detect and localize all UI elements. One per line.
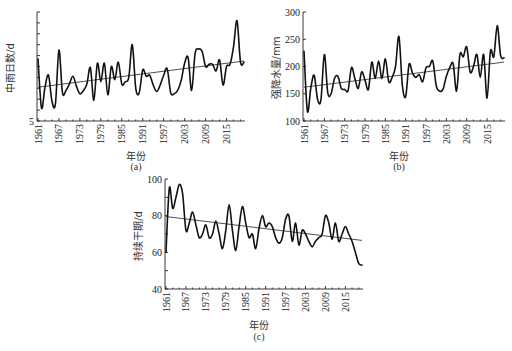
y-tick-label: 60 — [152, 247, 162, 258]
x-tick-label: 1997 — [280, 292, 291, 312]
chart-c-group: 4060801001961196719731979198519911997200… — [132, 174, 363, 344]
y-tick-label: 80 — [152, 210, 162, 221]
y-axis-label: 持续干期/d — [132, 211, 144, 261]
x-tick-label: 1967 — [180, 292, 191, 312]
x-tick-label: 2009 — [320, 292, 331, 312]
data-series-line — [166, 184, 362, 265]
x-tick-label: 1979 — [220, 292, 231, 312]
x-tick-label: 1973 — [200, 292, 211, 312]
x-axis-label: 年份 — [249, 319, 269, 331]
x-tick-label: 2003 — [300, 292, 311, 312]
y-tick-label: 100 — [147, 174, 162, 185]
chart-c-panel: 4060801001961196719731979198519911997200… — [0, 0, 512, 351]
chart-c: 4060801001961196719731979198519911997200… — [0, 0, 512, 351]
x-tick-label: 1985 — [240, 292, 251, 312]
chart-caption: (c) — [253, 331, 264, 343]
x-tick-label: 1991 — [260, 292, 271, 312]
x-tick-label: 1961 — [161, 292, 172, 312]
x-tick-label: 2015 — [340, 292, 351, 312]
